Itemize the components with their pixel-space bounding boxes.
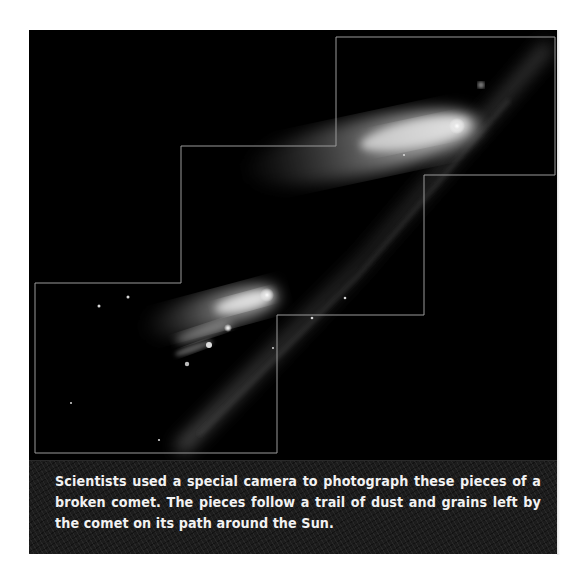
caption-panel: Scientists used a special camera to phot…: [29, 460, 557, 554]
figure-shadow: [557, 30, 560, 555]
comet-photograph: [29, 30, 557, 460]
comet-figure: Scientists used a special camera to phot…: [29, 30, 557, 554]
mosaic-frame-lines: [35, 37, 555, 453]
comet-image: [29, 30, 557, 460]
comet-fragment-upper: [236, 82, 484, 200]
caption-text: Scientists used a special camera to phot…: [55, 471, 541, 534]
comet-fragment-lower: [137, 276, 282, 347]
